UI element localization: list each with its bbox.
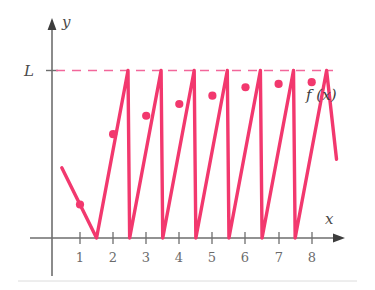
sample-point-marker [275,80,283,88]
x-tick-label-2: 2 [109,250,117,265]
limit-label-L: L [23,62,34,80]
figure-canvas: y x L 1 2 3 4 5 6 7 8 [0,0,375,290]
x-axis-label: x [325,210,334,228]
function-label: f (x) [305,86,337,104]
sample-point-marker [208,92,216,100]
x-tick-label-1: 1 [76,250,84,265]
sample-point-marker [76,200,84,208]
x-tick-label-5: 5 [208,250,216,265]
x-tick-label-4: 4 [175,250,183,265]
y-axis-label: y [61,13,71,31]
sample-point-marker [175,100,183,108]
figure-background [0,0,375,290]
sample-point-marker [142,112,150,120]
x-tick-label-3: 3 [142,250,150,265]
x-tick-label-7: 7 [275,250,283,265]
x-tick-label-8: 8 [308,250,316,265]
sample-point-marker [109,130,117,138]
sample-point-marker [241,83,249,91]
x-tick-label-6: 6 [241,250,249,265]
